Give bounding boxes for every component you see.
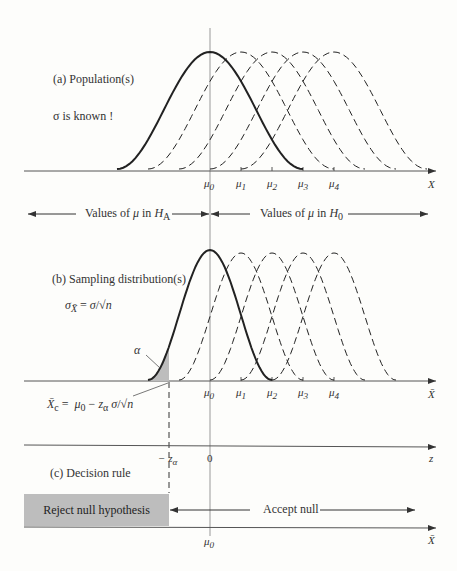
- alpha-label: α: [134, 343, 140, 358]
- critical-leader: [133, 383, 168, 396]
- tick-a-mu3: μ3: [298, 177, 308, 192]
- axis-label-z: z: [429, 452, 433, 464]
- panel-a-title: (a) Population(s): [53, 72, 134, 87]
- alpha-region: [148, 347, 169, 382]
- tick-c-mu0: μ0: [204, 535, 214, 550]
- tick-a-mu0: μ0: [204, 177, 214, 192]
- ha-values-label: Values of μ in HA: [85, 206, 170, 222]
- tick-b-mu3: μ3: [298, 386, 308, 401]
- reject-label: Reject null hypothesis: [43, 503, 150, 518]
- tick-b-mu1: μ1: [236, 386, 246, 401]
- population-curves: [117, 52, 427, 169]
- axis-label-xbar-b: X̄: [428, 388, 435, 400]
- tick-zero: 0: [207, 452, 213, 464]
- panel-b-title: (b) Sampling distribution(s): [52, 272, 186, 287]
- axis-label-x: X: [428, 178, 435, 190]
- accept-label: Accept null: [263, 502, 319, 517]
- tick-a-mu2: μ2: [267, 177, 277, 192]
- tick-b-mu4: μ4: [329, 386, 339, 401]
- z-axis: [24, 445, 436, 447]
- axis-label-xbar-c: X̄: [428, 534, 435, 546]
- tick-b-mu0: μ0: [204, 386, 214, 401]
- sigma-known-note: σ is known !: [53, 109, 113, 124]
- tick-a-mu4: μ4: [329, 177, 339, 192]
- std-error-formula: σX̄ = σ/√n: [65, 298, 112, 314]
- sampling-curves: [148, 250, 396, 380]
- tick-b-mu2: μ2: [267, 386, 277, 401]
- decision-x-axis: [24, 527, 436, 528]
- critical-value-formula: X̄c = μ0 − zα σ/√n: [47, 397, 133, 413]
- alpha-leader: [146, 355, 160, 368]
- tick-neg-z-alpha: − zα: [158, 452, 177, 467]
- h0-values-label: Values of μ in H0: [260, 206, 343, 222]
- panel-c-title: (c) Decision rule: [50, 466, 131, 481]
- tick-a-mu1: μ1: [236, 177, 246, 192]
- reject-region: Reject null hypothesis: [24, 494, 169, 526]
